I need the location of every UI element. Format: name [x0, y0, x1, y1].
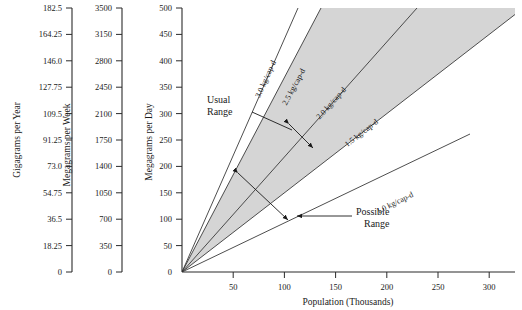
megagrams-week-tick-label: 1050 [95, 188, 112, 198]
megagrams-week-tick-label: 0 [108, 267, 112, 277]
possible-range-label-line1: Possible [356, 206, 390, 217]
figure-container: 182.5 164.25 146.0 127.75 109.5 91.25 73… [0, 0, 522, 310]
gigagrams-tick-label: 164.25 [39, 29, 62, 39]
gigagrams-tick-label: 18.25 [43, 241, 62, 251]
megagrams-day-tick-label: 0 [168, 267, 172, 277]
megagrams-day-tick-label: 400 [159, 56, 172, 66]
megagrams-week-tick-label: 3150 [95, 29, 112, 39]
gigagrams-tick-label: 36.5 [47, 214, 62, 224]
gigagrams-tick-label: 146.0 [43, 56, 62, 66]
megagrams-week-tick-label: 700 [99, 214, 112, 224]
main-plot: 3.0 kg/cap-d 2.5 kg/cap-d 2.0 kg/cap-d 1… [144, 3, 515, 308]
gigagrams-tick-label: 91.25 [43, 135, 62, 145]
population-tick-label: 300 [483, 282, 496, 292]
megagrams-week-tick-label: 2800 [95, 56, 112, 66]
waste-generation-chart: 182.5 164.25 146.0 127.75 109.5 91.25 73… [0, 0, 522, 310]
ray-2-0 [182, 8, 417, 272]
possible-range-label-line2: Range [364, 218, 390, 229]
population-axis-title: Population (Thousands) [302, 297, 393, 308]
megagrams-day-tick-label: 450 [159, 29, 172, 39]
megagrams-day-tick-label: 300 [159, 109, 172, 119]
gigagrams-axis-title: Gigagrams per Year [12, 101, 22, 178]
population-tick-label: 250 [432, 282, 445, 292]
megagrams-day-tick-label: 250 [159, 135, 172, 145]
gigagrams-tick-label: 73.0 [47, 161, 62, 171]
gigagrams-tick-label: 182.5 [43, 3, 62, 13]
megagrams-week-tick-label: 2450 [95, 82, 112, 92]
megagrams-day-tick-label: 200 [159, 161, 172, 171]
megagrams-day-tick-label: 50 [164, 241, 173, 251]
axis-megagrams-per-day: 500 450 400 350 300 250 200 150 100 50 0… [144, 3, 182, 277]
gigagrams-tick-label: 109.5 [43, 109, 62, 119]
axis-megagrams-per-week: 3500 3150 2800 2450 2100 1750 1400 1050 … [62, 3, 122, 277]
usual-range-label-line1: Usual [207, 94, 231, 105]
megagrams-week-axis-title: Megagrams per Week [62, 103, 72, 186]
megagrams-day-tick-label: 350 [159, 82, 172, 92]
megagrams-day-tick-label: 100 [159, 214, 172, 224]
population-tick-label: 50 [229, 282, 238, 292]
megagrams-day-tick-label: 500 [159, 3, 172, 13]
megagrams-week-tick-label: 1400 [95, 161, 112, 171]
usual-range-label-line2: Range [207, 106, 233, 117]
gigagrams-tick-label: 127.75 [39, 82, 62, 92]
population-tick-label: 150 [329, 282, 342, 292]
gigagrams-tick-label: 54.75 [43, 188, 62, 198]
megagrams-week-tick-label: 3500 [95, 3, 112, 13]
megagrams-week-tick-label: 2100 [95, 109, 112, 119]
axis-population: 50 100 150 200 250 300 Population (Thous… [182, 272, 515, 308]
megagrams-day-axis-title: Megagrams per Day [144, 103, 154, 181]
population-tick-label: 200 [380, 282, 393, 292]
population-tick-label: 100 [278, 282, 291, 292]
gigagrams-tick-label: 0 [58, 267, 62, 277]
megagrams-week-tick-label: 350 [99, 241, 112, 251]
megagrams-week-tick-label: 1750 [95, 135, 112, 145]
megagrams-day-tick-label: 150 [159, 188, 172, 198]
ray-label-3-0: 3.0 kg/cap-d [253, 59, 277, 99]
